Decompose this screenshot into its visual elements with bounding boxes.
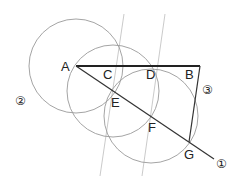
label-E: E bbox=[111, 95, 120, 110]
step-label-3: ③ bbox=[202, 83, 213, 97]
parallel-line-through-D-F bbox=[142, 14, 165, 176]
label-F: F bbox=[148, 120, 156, 135]
label-D: D bbox=[146, 67, 155, 82]
label-G: G bbox=[184, 147, 194, 162]
step-label-1: ① bbox=[216, 157, 227, 171]
label-B: B bbox=[185, 67, 194, 82]
label-A: A bbox=[61, 59, 70, 74]
label-C: C bbox=[103, 67, 112, 82]
step-label-2: ② bbox=[15, 94, 26, 108]
geometry-diagram: A C D B E F G ① ② ③ bbox=[0, 0, 243, 187]
